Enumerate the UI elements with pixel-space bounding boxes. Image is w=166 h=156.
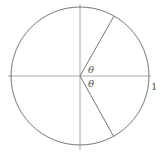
unit-circle-diagram: θ θ 1 — [0, 0, 166, 156]
lower-angle-label: θ — [88, 78, 94, 89]
radius-upper — [80, 16, 114, 76]
radius-lower — [80, 76, 114, 137]
radius-one-label: 1 — [151, 81, 157, 92]
upper-angle-label: θ — [88, 64, 94, 75]
